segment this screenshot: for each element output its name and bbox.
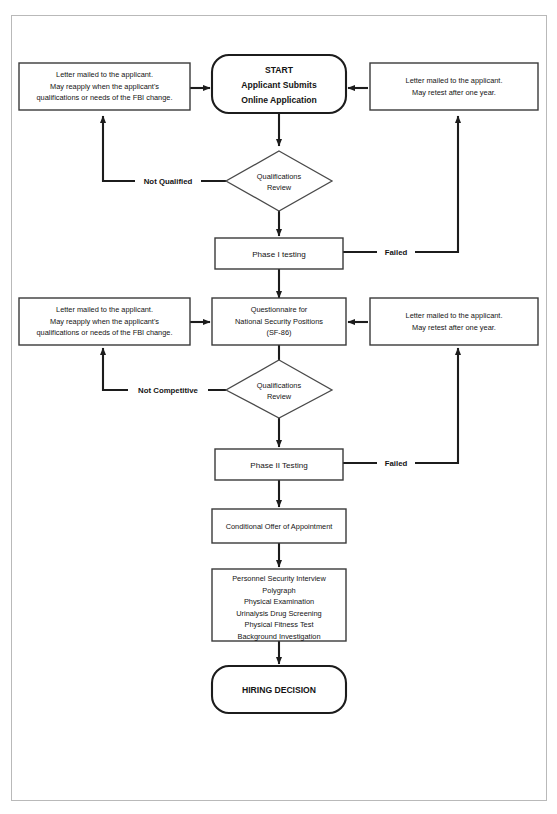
- not-competitive-text: Not Competitive: [138, 386, 198, 395]
- flowchart-canvas: Letter mailed to the applicant. May reap…: [0, 0, 557, 814]
- letter-top-left-line2: May reapply when the applicant's: [50, 82, 159, 91]
- letter-mid-left-line3: qualifications or needs of the FBI chang…: [37, 328, 173, 337]
- letter-top-left-line1: Letter mailed to the applicant.: [56, 70, 153, 79]
- node-start[interactable]: START Applicant Submits Online Applicati…: [212, 55, 346, 113]
- flowchart-page: Letter mailed to the applicant. May reap…: [0, 0, 557, 814]
- label-failed-2: Failed: [377, 457, 415, 469]
- edge-qualreview2-not-competitive: [103, 348, 226, 390]
- start-line1: START: [265, 65, 294, 75]
- letter-top-right-line2: May retest after one year.: [412, 88, 496, 97]
- node-letter-mid-right[interactable]: Letter mailed to the applicant. May rete…: [370, 298, 538, 345]
- phase2-line1: Phase II Testing: [250, 461, 307, 470]
- node-phase2[interactable]: Phase II Testing: [215, 449, 343, 480]
- checks-line1: Personnel Security Interview: [232, 574, 326, 583]
- node-letter-top-left[interactable]: Letter mailed to the applicant. May reap…: [19, 63, 190, 110]
- qual-review-1-line2: Review: [267, 183, 292, 192]
- qual-review-2-line2: Review: [267, 392, 292, 401]
- letter-mid-right-line2: May retest after one year.: [412, 323, 496, 332]
- checks-line2: Polygraph: [262, 586, 295, 595]
- letter-mid-left-line2: May reapply when the applicant's: [50, 317, 159, 326]
- edge-phase1-failed: [343, 116, 458, 252]
- node-letter-mid-left[interactable]: Letter mailed to the applicant. May reap…: [19, 298, 190, 345]
- letter-mid-left-line1: Letter mailed to the applicant.: [56, 305, 153, 314]
- not-qualified-text: Not Qualified: [144, 177, 193, 186]
- node-sf86[interactable]: Questionnaire for National Security Posi…: [212, 298, 346, 345]
- label-not-competitive: Not Competitive: [128, 384, 208, 396]
- failed-2-text: Failed: [385, 459, 408, 468]
- start-line3: Online Application: [241, 95, 317, 105]
- start-line2: Applicant Submits: [241, 80, 317, 90]
- offer-line1: Conditional Offer of Appointment: [226, 522, 333, 531]
- node-qualifications-review-1[interactable]: Qualifications Review: [226, 151, 332, 211]
- letter-mid-right-line1: Letter mailed to the applicant.: [406, 311, 503, 320]
- label-failed-1: Failed: [377, 246, 415, 258]
- phase1-line1: Phase I testing: [252, 250, 306, 259]
- checks-line3: Physical Examination: [244, 597, 314, 606]
- failed-1-text: Failed: [385, 248, 408, 257]
- sf86-line1: Questionnaire for: [251, 305, 308, 314]
- letter-top-right-line1: Letter mailed to the applicant.: [406, 76, 503, 85]
- edge-phase2-failed: [343, 348, 458, 463]
- node-letter-top-right[interactable]: Letter mailed to the applicant. May rete…: [370, 63, 538, 110]
- checks-line5: Physical Fitness Test: [245, 620, 314, 629]
- label-not-qualified: Not Qualified: [135, 175, 201, 187]
- checks-line4: Urinalysis Drug Screening: [236, 609, 321, 618]
- node-hiring-decision[interactable]: HIRING DECISION: [212, 666, 346, 713]
- sf86-line2: National Security Positions: [235, 317, 323, 326]
- node-conditional-offer[interactable]: Conditional Offer of Appointment: [212, 509, 346, 543]
- node-qualifications-review-2[interactable]: Qualifications Review: [226, 360, 332, 418]
- qual-review-2-line1: Qualifications: [257, 381, 302, 390]
- qual-review-1-line1: Qualifications: [257, 172, 302, 181]
- letter-top-left-line3: qualifications or needs of the FBI chang…: [37, 93, 173, 102]
- node-checks[interactable]: Personnel Security Interview Polygraph P…: [212, 569, 346, 641]
- decision-line1: HIRING DECISION: [242, 685, 316, 695]
- sf86-line3: (SF-86): [266, 328, 291, 337]
- edge-qualreview1-not-qualified: [103, 116, 226, 181]
- checks-line6: Background Investigation: [238, 632, 321, 641]
- node-phase1[interactable]: Phase I testing: [215, 238, 343, 269]
